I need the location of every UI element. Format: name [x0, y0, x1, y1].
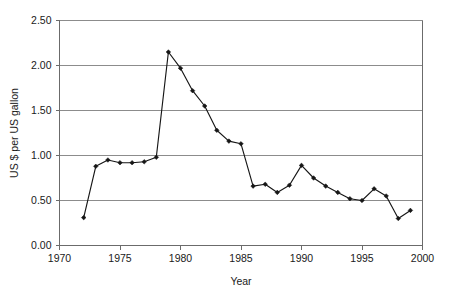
x-axis-title: Year [230, 275, 252, 287]
x-tick-label: 1980 [169, 252, 193, 264]
line-chart: 0.000.501.001.502.002.501970197519801985… [0, 0, 449, 305]
y-tick-label: 1.00 [31, 149, 52, 161]
y-tick-label: 0.00 [31, 239, 52, 251]
data-point-marker [81, 215, 86, 220]
x-tick-label: 1970 [48, 252, 72, 264]
data-point-marker [94, 164, 99, 169]
y-axis-title: US $ per US gallon [8, 88, 20, 178]
data-point-marker [106, 158, 111, 163]
data-point-marker [251, 184, 256, 189]
data-point-marker [336, 190, 341, 195]
x-tick-label: 1990 [290, 252, 314, 264]
y-tick-label: 0.50 [31, 194, 52, 206]
x-tick-label: 1975 [108, 252, 132, 264]
y-tick-label: 1.50 [31, 104, 52, 116]
y-tick-label: 2.00 [31, 59, 52, 71]
y-tick-label: 2.50 [31, 14, 52, 26]
x-tick-label: 1985 [229, 252, 253, 264]
data-point-marker [142, 160, 147, 165]
x-tick-label: 2000 [411, 252, 435, 264]
chart-container: 0.000.501.001.502.002.501970197519801985… [0, 0, 449, 305]
series-line-gasoline-price [84, 52, 411, 219]
data-point-marker [118, 160, 123, 165]
data-point-marker [130, 160, 135, 165]
x-tick-label: 1995 [350, 252, 374, 264]
data-point-marker [239, 142, 244, 147]
